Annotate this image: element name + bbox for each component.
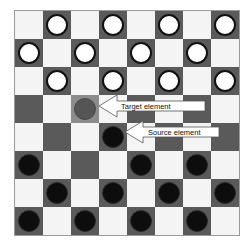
board-square[interactable] <box>99 207 127 235</box>
board-square[interactable] <box>71 11 99 39</box>
white-checker-piece[interactable] <box>102 70 124 92</box>
board-square[interactable] <box>211 67 239 95</box>
board-square[interactable] <box>211 39 239 67</box>
board-square[interactable] <box>211 151 239 179</box>
board-square[interactable] <box>43 39 71 67</box>
white-checker-piece[interactable] <box>74 42 96 64</box>
white-checker-piece[interactable] <box>130 42 152 64</box>
source-black-checker-piece[interactable] <box>102 126 124 148</box>
black-checker-piece[interactable] <box>102 182 124 204</box>
white-checker-piece[interactable] <box>46 14 68 36</box>
board-square[interactable] <box>43 67 71 95</box>
board-square[interactable] <box>15 151 43 179</box>
board-square[interactable] <box>99 67 127 95</box>
board-square[interactable] <box>155 67 183 95</box>
board-square[interactable] <box>71 151 99 179</box>
white-checker-piece[interactable] <box>18 42 40 64</box>
board-square[interactable] <box>211 207 239 235</box>
black-checker-piece[interactable] <box>46 182 68 204</box>
board-square[interactable] <box>71 123 99 151</box>
black-checker-piece[interactable] <box>214 182 236 204</box>
board-square[interactable] <box>15 39 43 67</box>
target-label: Target element <box>121 102 171 111</box>
board-square[interactable] <box>211 95 239 123</box>
white-checker-piece[interactable] <box>214 14 236 36</box>
target-drop-indicator[interactable] <box>74 98 96 120</box>
board-square[interactable] <box>43 179 71 207</box>
board-square[interactable] <box>99 39 127 67</box>
board-square[interactable] <box>99 151 127 179</box>
black-checker-piece[interactable] <box>74 210 96 232</box>
black-checker-piece[interactable] <box>18 154 40 176</box>
board-square[interactable] <box>127 207 155 235</box>
board-square[interactable] <box>183 179 211 207</box>
board-square[interactable] <box>127 11 155 39</box>
board-square[interactable] <box>155 179 183 207</box>
board-square[interactable] <box>15 11 43 39</box>
black-checker-piece[interactable] <box>130 210 152 232</box>
white-checker-piece[interactable] <box>46 70 68 92</box>
black-checker-piece[interactable] <box>186 154 208 176</box>
board-square[interactable] <box>71 39 99 67</box>
board-square[interactable] <box>15 95 43 123</box>
board-square[interactable] <box>43 123 71 151</box>
source-callout: Source element <box>124 120 234 136</box>
board-square[interactable] <box>183 151 211 179</box>
black-checker-piece[interactable] <box>158 182 180 204</box>
board-square[interactable] <box>183 11 211 39</box>
board-square[interactable] <box>15 179 43 207</box>
board-square[interactable] <box>127 67 155 95</box>
board-square[interactable] <box>43 11 71 39</box>
board-square[interactable] <box>183 207 211 235</box>
source-label: Source element <box>148 128 201 137</box>
board-square[interactable] <box>15 123 43 151</box>
board-square[interactable] <box>127 151 155 179</box>
board-square[interactable] <box>155 151 183 179</box>
board-square[interactable] <box>127 179 155 207</box>
black-checker-piece[interactable] <box>130 154 152 176</box>
board-square[interactable] <box>43 151 71 179</box>
white-checker-piece[interactable] <box>158 14 180 36</box>
board-square[interactable] <box>183 39 211 67</box>
board-square[interactable] <box>15 207 43 235</box>
white-checker-piece[interactable] <box>158 70 180 92</box>
board-square[interactable] <box>99 179 127 207</box>
board-square[interactable] <box>15 67 43 95</box>
board-square[interactable] <box>43 207 71 235</box>
black-checker-piece[interactable] <box>186 210 208 232</box>
board-square[interactable] <box>211 11 239 39</box>
black-checker-piece[interactable] <box>18 210 40 232</box>
target-callout: Target element <box>98 94 208 110</box>
board-square[interactable] <box>71 179 99 207</box>
white-checker-piece[interactable] <box>214 70 236 92</box>
board-square[interactable] <box>183 67 211 95</box>
source-square[interactable] <box>99 123 127 151</box>
board-square[interactable] <box>211 179 239 207</box>
board-square[interactable] <box>71 207 99 235</box>
board-square[interactable] <box>71 67 99 95</box>
white-checker-piece[interactable] <box>186 42 208 64</box>
board-square[interactable] <box>127 39 155 67</box>
board-square[interactable] <box>99 11 127 39</box>
board-square[interactable] <box>43 95 71 123</box>
board-square[interactable] <box>155 207 183 235</box>
board-square[interactable] <box>155 39 183 67</box>
white-checker-piece[interactable] <box>102 14 124 36</box>
board-square[interactable] <box>155 11 183 39</box>
target-square[interactable] <box>71 95 99 123</box>
